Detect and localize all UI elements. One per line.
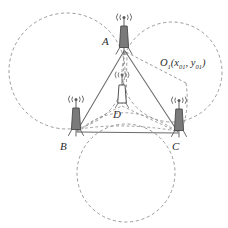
label-vertex-d: D [113, 109, 121, 120]
circle-right [122, 22, 222, 122]
antenna-d-legs [116, 103, 129, 108]
antenna-b [68, 96, 83, 136]
antenna-b-body [71, 108, 80, 130]
antenna-a [116, 14, 132, 55]
circle-bottom [77, 124, 175, 222]
label-vertex-a: A [102, 36, 109, 47]
o1-letter: O [160, 57, 168, 68]
antenna-c-body [174, 109, 183, 131]
antenna-c-legs [172, 131, 187, 138]
circle-left [9, 13, 125, 129]
antenna-c [171, 97, 186, 137]
antenna-a-legs [116, 48, 132, 55]
figure-root: A B C D O1(x01, y01) [0, 0, 228, 228]
arc-d-lower [80, 126, 177, 131]
antenna-b-legs [69, 130, 84, 137]
label-vertex-c: C [172, 141, 179, 152]
label-vertex-b: B [60, 141, 67, 152]
antenna-a-body [119, 26, 128, 48]
antenna-d [115, 72, 129, 108]
o1-paren-close: ) [202, 57, 206, 68]
edge-bc [77, 132, 178, 133]
antenna-d-body [118, 85, 127, 103]
label-circle-center-o1: O1(x01, y01) [160, 58, 205, 71]
